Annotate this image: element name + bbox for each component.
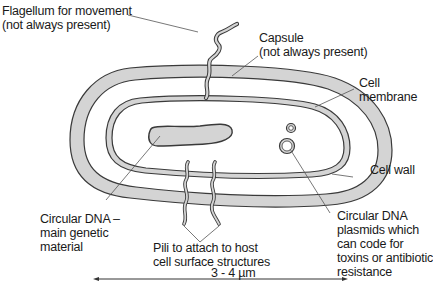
label-scale: 3 - 4 µm — [211, 266, 256, 280]
label-pili: Pili to attach to host cell surface stru… — [153, 241, 270, 269]
label-capsule: Capsule (not always present) — [259, 31, 368, 59]
label-cell-wall: Cell wall — [370, 163, 415, 177]
label-flagellum: Flagellum for movement (not always prese… — [2, 4, 132, 32]
label-plasmids: Circular DNA plasmids which can code for… — [337, 209, 433, 279]
label-cell-membrane: Cell membrane — [359, 76, 417, 104]
label-circular-dna: Circular DNA – main genetic material — [40, 212, 120, 254]
